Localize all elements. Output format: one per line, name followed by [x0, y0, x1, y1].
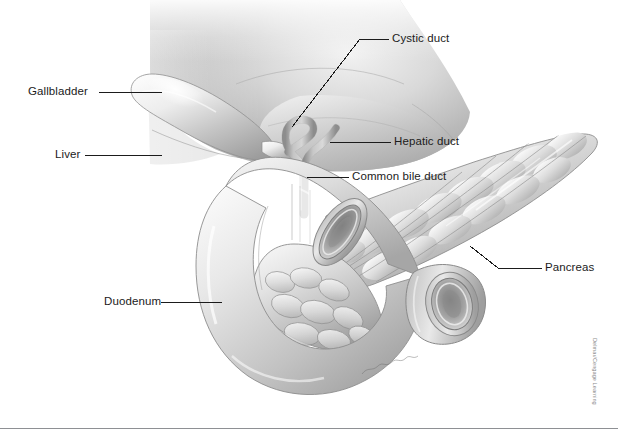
label-cystic-duct: Cystic duct: [392, 32, 449, 44]
publisher-credit: Delmar/Cengage Learning: [592, 338, 598, 405]
leader-pancreas: [470, 246, 542, 268]
label-pancreas: Pancreas: [545, 261, 594, 273]
label-hepatic-duct: Hepatic duct: [394, 135, 459, 147]
label-common-bile-duct: Common bile duct: [352, 170, 446, 182]
label-gallbladder: Gallbladder: [28, 85, 88, 97]
bottom-divider: [0, 428, 618, 429]
anatomy-figure: Gallbladder Liver Cystic duct Hepatic du…: [0, 0, 618, 440]
biliary-system-illustration: [0, 0, 618, 440]
duodenum-cut-lower: [406, 265, 486, 345]
label-liver: Liver: [55, 148, 80, 160]
label-duodenum: Duodenum: [104, 295, 161, 307]
